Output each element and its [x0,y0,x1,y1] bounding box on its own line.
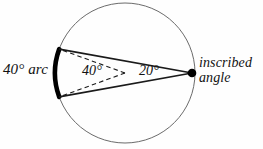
arc-measure-label: 40° arc [3,62,48,78]
inscribed-angle-figure: 40° arc 40° 20° inscribed angle [0,0,263,149]
highlighted-arc [55,49,59,97]
inscribed-angle-ray-lower [59,73,192,97]
inscribed-angle-name-line-1: inscribed [199,56,252,71]
inscribed-angle-name-label: inscribed angle [199,56,252,85]
inscribed-angle-measure-label: 20° [139,64,159,79]
inscribed-angle-name-line-2: angle [199,71,252,86]
inscribed-angle-vertex-dot [188,69,197,78]
central-angle-label: 40° [82,64,102,79]
inscribed-angle-ray-upper [59,49,192,73]
